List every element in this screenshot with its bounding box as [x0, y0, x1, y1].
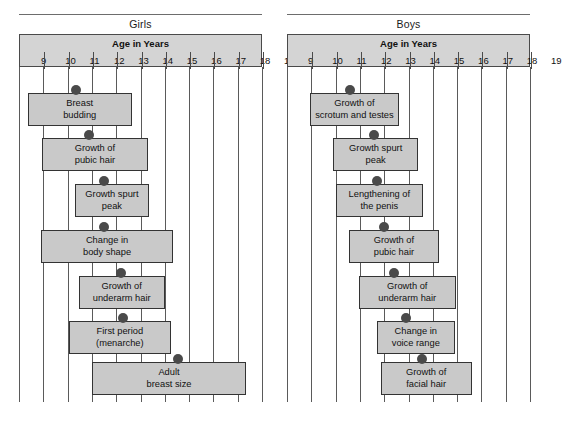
- axis-separator: [142, 52, 143, 69]
- event-bar-label-line1: Growth of: [312, 98, 397, 110]
- event-bar-label-line1: Change in: [389, 326, 443, 338]
- axis-separator: [507, 52, 508, 69]
- gridline-age-17: [481, 67, 482, 402]
- axis-separator: [361, 52, 362, 69]
- event-bar-label-line2: facial hair: [403, 379, 449, 391]
- axis-separator: [337, 52, 338, 69]
- event-bar-label-line2: body shape: [80, 247, 134, 259]
- event-bar[interactable]: Growth ofunderarm hair: [79, 276, 165, 309]
- event-bar-label-line2: scrotum and testes: [312, 110, 397, 122]
- panel-girls: GirlsAge in Years910111213141516171819Br…: [0, 0, 269, 423]
- event-bar-label-line2: peak: [82, 201, 141, 213]
- gridline-age-9: [19, 67, 20, 402]
- event-bar[interactable]: Growth ofscrotum and testes: [310, 93, 399, 126]
- average-age-marker: [116, 268, 126, 278]
- gridline-age-19: [262, 67, 263, 402]
- average-age-marker: [417, 354, 427, 364]
- panel-top-rule: [19, 14, 262, 15]
- gridline-age-16: [457, 67, 458, 402]
- axis-separator: [385, 52, 386, 69]
- axis-separator: [263, 52, 264, 69]
- axis-separator: [44, 52, 45, 69]
- event-bar[interactable]: Lengthening ofthe penis: [336, 184, 423, 217]
- axis-separator: [458, 52, 459, 69]
- event-bar-label-line1: Growth of: [90, 281, 154, 293]
- event-bar[interactable]: Growth ofpubic hair: [349, 230, 439, 263]
- axis-separator: [166, 52, 167, 69]
- axis-tick-14: 14: [430, 55, 446, 66]
- axis-tick-9: 9: [308, 55, 324, 66]
- axis-separator: [117, 52, 118, 69]
- event-bar-label-line1: Growth of: [72, 143, 118, 155]
- event-bar-label-line1: Growth of: [403, 367, 449, 379]
- axis-separator: [312, 52, 313, 69]
- axis-separator: [214, 52, 215, 69]
- axis-tick-16: 16: [478, 55, 494, 66]
- panel-boys: BoysAge in Years910111213141516171819Gro…: [269, 0, 538, 423]
- event-bar[interactable]: Breastbudding: [28, 93, 132, 126]
- gridline-age-18: [238, 67, 239, 402]
- event-bar[interactable]: Growth spurtpeak: [333, 138, 418, 171]
- panel-title-girls: Girls: [19, 18, 262, 30]
- event-bar-label-line2: voice range: [389, 338, 443, 350]
- gridline-age-9: [287, 67, 288, 402]
- gridline-age-18: [506, 67, 507, 402]
- axis-tick-13: 13: [405, 55, 421, 66]
- event-bar-label-line1: First period: [93, 326, 147, 338]
- axis-tick-10: 10: [332, 55, 348, 66]
- event-bar-label-line2: the penis: [346, 201, 414, 213]
- event-bar-label-line1: Breast: [60, 98, 99, 110]
- axis-separator: [531, 52, 532, 69]
- event-bar-label-line2: underarm hair: [375, 293, 439, 305]
- event-bar-label-line1: Adult: [144, 367, 195, 379]
- panel-title-boys: Boys: [287, 18, 530, 30]
- event-bar[interactable]: Growth spurtpeak: [75, 184, 149, 217]
- axis-separator: [410, 52, 411, 69]
- average-age-marker: [401, 313, 411, 323]
- axis-tick-15: 15: [454, 55, 470, 66]
- axis-separator: [482, 52, 483, 69]
- event-bar-label-line1: Growth spurt: [346, 143, 405, 155]
- axis-tick-11: 11: [357, 55, 373, 66]
- event-bar-label-line2: pubic hair: [72, 155, 118, 167]
- gridline-age-16: [189, 67, 190, 402]
- axis-title: Age in Years: [20, 38, 261, 49]
- axis-separator: [190, 52, 191, 69]
- axis-title: Age in Years: [288, 38, 529, 49]
- axis-header-girls: Age in Years910111213141516171819: [19, 34, 262, 67]
- average-age-marker: [99, 222, 109, 232]
- event-bar-label-line2: (menarche): [93, 338, 147, 350]
- panel-top-rule: [287, 14, 530, 15]
- event-bar-label-line1: Lengthening of: [346, 189, 414, 201]
- event-bar-label-line1: Growth of: [375, 281, 439, 293]
- axis-separator: [69, 52, 70, 69]
- event-bar[interactable]: Change inbody shape: [41, 230, 173, 263]
- event-bar-label-line2: peak: [346, 155, 405, 167]
- event-bar-label-line2: budding: [60, 110, 99, 122]
- gridline-age-19: [530, 67, 531, 402]
- axis-header-boys: Age in Years910111213141516171819: [287, 34, 530, 67]
- event-bar-label-line1: Change in: [80, 235, 134, 247]
- average-age-marker: [372, 176, 382, 186]
- event-bar-label-line1: Growth of: [371, 235, 417, 247]
- axis-separator: [93, 52, 94, 69]
- event-bar-label-line2: pubic hair: [371, 247, 417, 259]
- event-bar[interactable]: Change invoice range: [377, 321, 455, 354]
- event-bar[interactable]: Growth ofunderarm hair: [359, 276, 456, 309]
- axis-separator: [239, 52, 240, 69]
- average-age-marker: [99, 176, 109, 186]
- axis-tick-17: 17: [502, 55, 518, 66]
- event-bar[interactable]: First period(menarche): [69, 321, 171, 354]
- event-bar-label-line1: Growth spurt: [82, 189, 141, 201]
- axis-separator: [434, 52, 435, 69]
- average-age-marker: [389, 268, 399, 278]
- event-bar[interactable]: Adultbreast size: [92, 362, 246, 395]
- gridline-age-17: [213, 67, 214, 402]
- event-bar-label-line2: breast size: [144, 379, 195, 391]
- event-bar-label-line2: underarm hair: [90, 293, 154, 305]
- event-bar[interactable]: Growth offacial hair: [381, 362, 472, 395]
- event-bar[interactable]: Growth ofpubic hair: [42, 138, 148, 171]
- axis-tick-12: 12: [381, 55, 397, 66]
- axis-tick-19: 19: [551, 55, 566, 66]
- axis-tick-18: 18: [527, 55, 543, 66]
